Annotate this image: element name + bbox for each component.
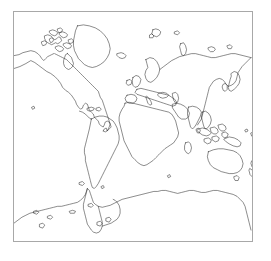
coastline-arctic-archipelago	[42, 28, 74, 52]
coastline-antarctic-inner	[102, 199, 120, 226]
coastline-siberian-islands	[208, 45, 232, 52]
coastline-southern-island	[79, 182, 84, 186]
world-coastline-map	[14, 12, 252, 241]
coastline-pacific-islands	[32, 106, 35, 109]
coastline-alaska	[14, 51, 54, 61]
coastline-british-isles	[126, 75, 141, 87]
world-map-figure	[0, 0, 271, 261]
coastline-australia	[207, 149, 243, 174]
coastline-arctic-island	[175, 31, 180, 35]
coastline-antarctic-islands	[34, 203, 111, 228]
coastline-south-america	[84, 116, 119, 188]
coastline-south-atlantic-island	[168, 175, 171, 178]
map-plot-frame	[13, 11, 253, 242]
coastline-indian-ocean-island	[245, 129, 252, 136]
coastline-africa	[119, 102, 179, 165]
coastline-iceland	[117, 53, 126, 59]
coastline-indonesia	[197, 124, 228, 144]
coastline-antarctica	[14, 188, 251, 230]
coastline-scandinavia	[145, 58, 160, 83]
coastline-black-sea	[158, 92, 179, 103]
coastline-tasmania	[234, 176, 239, 181]
coastline-falklands	[101, 185, 104, 188]
coastline-north-america	[14, 61, 110, 131]
coastline-north-america-east	[55, 54, 112, 132]
coastline-europe	[135, 88, 177, 106]
coastline-iberia	[125, 94, 137, 103]
coastline-greenland	[74, 25, 111, 68]
coastline-asia-east	[197, 58, 251, 125]
coastline-asia-north	[160, 54, 251, 70]
coastline-new-guinea	[224, 137, 241, 147]
coastline-india	[188, 106, 202, 129]
coastline-madagascar	[185, 142, 192, 154]
coastline-novaya-zemlya	[180, 43, 187, 56]
coastline-new-zealand	[249, 160, 252, 177]
coastline-central-america	[79, 111, 91, 119]
coastline-svalbard	[150, 29, 161, 38]
coastline-antarctic-peninsula	[83, 188, 102, 233]
